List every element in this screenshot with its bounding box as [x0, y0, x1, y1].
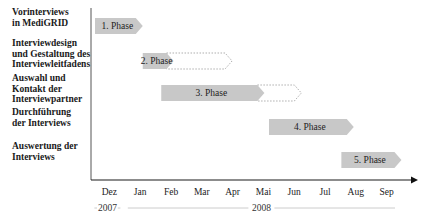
- phase-label: 5. Phase: [354, 155, 386, 165]
- x-tick-label: Dez: [102, 187, 117, 197]
- x-tick-label: Apr: [225, 187, 241, 197]
- x-tick-label: Jul: [319, 187, 330, 197]
- phase-label: 4. Phase: [294, 122, 326, 132]
- axis-arrow-icon: [411, 177, 418, 184]
- phase-label: 3. Phase: [195, 88, 227, 98]
- phase-extension-bar: [167, 53, 233, 69]
- year-label: 2007: [98, 203, 117, 213]
- x-tick-label: Jan: [134, 187, 147, 197]
- phase-label: 2. Phase: [141, 56, 173, 66]
- phase-label: 1. Phase: [102, 21, 134, 31]
- gantt-chart: 1. Phase2. Phase3. Phase4. Phase5. Phase…: [0, 0, 427, 222]
- x-tick-label: Mai: [256, 187, 272, 197]
- x-tick-label: Sep: [379, 187, 394, 197]
- x-tick-label: Aug: [348, 187, 365, 197]
- x-tick-label: Feb: [164, 187, 179, 197]
- year-label: 2008: [252, 203, 271, 213]
- x-tick-label: Mar: [194, 187, 211, 197]
- x-tick-label: Jun: [288, 187, 301, 197]
